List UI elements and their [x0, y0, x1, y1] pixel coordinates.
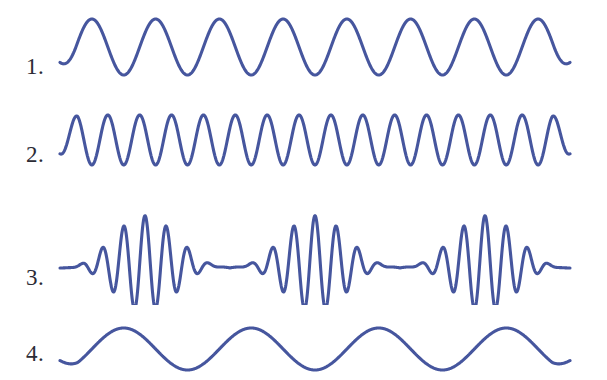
wave-path-1 [60, 19, 570, 75]
wave-row-1: 1. [0, 0, 607, 95]
wave-row-4: 4. [0, 305, 607, 380]
wave-trace-4 [0, 305, 607, 380]
wave-trace-3 [0, 185, 607, 305]
wave-path-4 [60, 328, 570, 370]
wave-path-2 [60, 115, 570, 165]
wave-row-3: 3. [0, 185, 607, 305]
wave-path-3 [60, 216, 570, 305]
wave-trace-2 [0, 95, 607, 185]
wave-trace-1 [0, 0, 607, 95]
waveform-figure: 1. 2. 3. 4. [0, 0, 607, 380]
wave-row-2: 2. [0, 95, 607, 185]
